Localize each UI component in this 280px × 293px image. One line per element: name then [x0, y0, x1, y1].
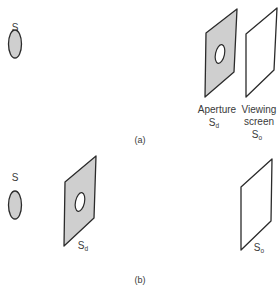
- source-b: [9, 191, 22, 219]
- panel-label-b: (b): [135, 275, 146, 285]
- aperture-symbol-a: Sd: [209, 117, 220, 129]
- aperture-symbol-b: Sd: [78, 240, 89, 252]
- panel-a: S Aperture Sd Viewing screen So (a): [9, 8, 278, 145]
- screen-label-line1-a: Viewing: [242, 104, 277, 115]
- source-label-b: S: [12, 172, 19, 183]
- source-a: [9, 30, 22, 58]
- diffraction-setup-diagram: S Aperture Sd Viewing screen So (a) S Sd…: [0, 0, 280, 293]
- panel-label-a: (a): [135, 135, 146, 145]
- screen-label-line2-a: screen: [244, 116, 274, 127]
- aperture-label-a: Aperture: [198, 104, 237, 115]
- screen-symbol-a: So: [252, 129, 263, 141]
- viewing-screen-a: [246, 8, 277, 97]
- viewing-screen-b: [241, 159, 272, 250]
- panel-b: S Sd So (b): [9, 156, 273, 285]
- screen-symbol-b: So: [254, 242, 265, 254]
